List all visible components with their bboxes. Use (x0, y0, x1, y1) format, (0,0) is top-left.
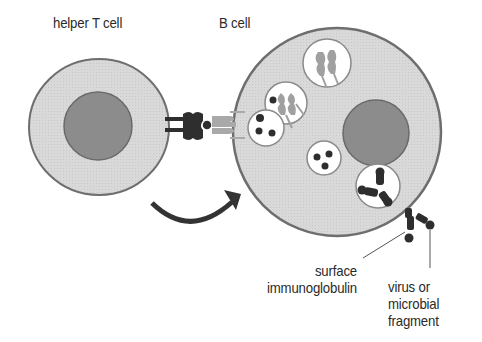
b-cell-nucleus (343, 100, 409, 166)
label-virus-line2: microbial (388, 295, 439, 312)
label-surface-line2: immunoglobulin (234, 279, 357, 296)
label-surface-immunoglobulin: surface immunoglobulin (234, 262, 357, 296)
label-surface-line1: surface (234, 262, 357, 279)
label-helper-t-cell: helper T cell (53, 14, 122, 31)
label-virus-line3: fragment (388, 312, 439, 329)
label-b-cell: B cell (219, 14, 250, 31)
vesicle-internalized-antigen (356, 164, 400, 208)
label-virus-fragment: virus or microbial fragment (388, 278, 439, 329)
label-virus-line1: virus or (388, 278, 439, 295)
helper-t-cell (29, 59, 169, 195)
leader-line-immunoglobulin (363, 232, 405, 258)
vesicle-antigen-fragments (307, 141, 341, 175)
b-cell (233, 28, 441, 236)
curved-arrow-icon (152, 190, 241, 221)
vesicle-mhc-top (303, 39, 351, 87)
t-cell-nucleus (64, 92, 132, 160)
